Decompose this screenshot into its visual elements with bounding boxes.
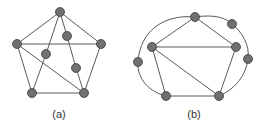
edge-inner-upper-inner-lower	[67, 36, 76, 68]
edge-top-left	[17, 12, 60, 44]
node-left	[13, 40, 22, 49]
edge-left-bottom-right	[152, 47, 219, 96]
curved-edge	[138, 17, 195, 96]
node-right	[232, 43, 241, 52]
node-top	[191, 13, 200, 22]
edge-right-bottom-right	[219, 47, 236, 96]
node-outer-left	[134, 58, 143, 67]
edge-right-bottom-right	[84, 44, 101, 93]
graph-panel-b	[134, 13, 253, 101]
edge-left-bottom-left	[152, 47, 166, 96]
node-bottom-right	[80, 89, 89, 98]
node-inner-left	[42, 50, 51, 59]
node-inner-upper	[63, 32, 72, 41]
node-inner-lower	[72, 64, 81, 73]
node-outer-right-top	[228, 20, 237, 29]
graph-panel-a	[13, 8, 106, 98]
edge-left-bottom-left	[17, 44, 32, 93]
caption-a: (a)	[52, 108, 65, 120]
graph-diagram	[0, 0, 266, 129]
node-top	[56, 8, 65, 17]
edge-top-inner-left	[46, 12, 60, 54]
node-outer-right	[244, 55, 253, 64]
caption-b: (b)	[187, 108, 200, 120]
node-bottom-left	[162, 92, 171, 101]
node-bottom-right	[215, 92, 224, 101]
edge-top-left	[152, 17, 195, 47]
node-right	[97, 40, 106, 49]
node-bottom-left	[28, 89, 37, 98]
node-left	[148, 43, 157, 52]
